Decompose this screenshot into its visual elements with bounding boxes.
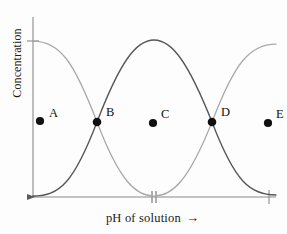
concentration-vs-ph-figure: Concentration pH of solution→ A B C D E (0, 0, 287, 234)
curve-light-species (33, 41, 276, 196)
point-label-b: B (106, 106, 114, 119)
point-label-d: D (221, 106, 230, 119)
origin-marker (27, 194, 35, 200)
x-axis-label-text: pH of solution (106, 211, 181, 225)
point-label-e: E (276, 108, 284, 121)
point-label-a: A (49, 107, 58, 120)
point-label-c: C (161, 108, 169, 121)
marker-dot-d (208, 118, 217, 127)
x-axis-label: pH of solution→ (0, 211, 287, 225)
marker-dot-b (93, 118, 102, 127)
y-axis-label: Concentration (11, 13, 23, 113)
marker-dot-e (264, 119, 272, 127)
right-arrow-icon: → (181, 211, 199, 224)
plot-area (0, 0, 287, 234)
marker-dot-a (36, 117, 44, 125)
marker-dot-c (149, 119, 157, 127)
